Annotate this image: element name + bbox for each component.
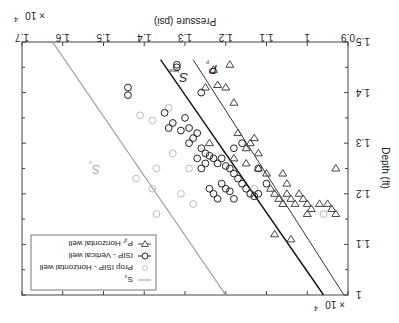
y-tick-label: 1.4 — [356, 87, 370, 98]
x-tick-label: 1 — [304, 32, 310, 43]
legend-isip-swatch — [142, 253, 148, 259]
pp-point — [332, 165, 340, 172]
x-tick-label: 1.2 — [218, 32, 232, 43]
y-tick-label: 1.1 — [356, 238, 370, 249]
pp-point — [226, 61, 234, 67]
pp-point — [254, 149, 262, 156]
scatter-plot: 0.911.11.21.31.41.51.61.711.11.21.31.41.… — [0, 0, 399, 323]
pp-point — [222, 84, 230, 91]
legend: S v Prop ISIP - Horizontal well ISIP - V… — [31, 235, 156, 290]
x-tick-label: 1.4 — [137, 32, 151, 43]
isip-point — [263, 180, 270, 187]
prop-isip-point — [186, 165, 193, 172]
isip-point — [239, 140, 246, 147]
y-multiplier: × 10 4 — [314, 299, 345, 312]
data-points — [125, 61, 340, 242]
x-tick-label: 1.1 — [259, 32, 273, 43]
y-axis-label: Depth (ft) — [380, 147, 391, 189]
isip-point — [194, 130, 201, 137]
pp-point — [279, 170, 287, 177]
sv-annotation: S v — [89, 160, 100, 176]
prop-isip-point — [190, 201, 197, 208]
isip-point — [169, 120, 176, 127]
isip-point — [231, 145, 238, 152]
prop-isip-point — [153, 211, 160, 218]
pp-annotation: P p — [206, 60, 217, 76]
prop-isip-point — [137, 112, 144, 119]
pp-point — [324, 200, 332, 207]
isip-point — [218, 155, 225, 162]
sv-text: S — [92, 162, 100, 176]
pp-point — [283, 190, 291, 197]
prop-isip-point — [149, 117, 156, 124]
pp-point — [214, 81, 222, 88]
prop-isip-point — [178, 190, 185, 197]
legend-pp-label: P - Horizontal well — [68, 239, 133, 248]
isip-point — [178, 127, 185, 134]
pp-point — [271, 230, 279, 237]
legend-sv-label: S — [128, 275, 133, 284]
y-multiplier-exp: 4 — [314, 305, 318, 312]
shmin-annotation: S hmin — [168, 68, 188, 85]
pp-point — [242, 159, 250, 166]
shmin-sub: hmin — [168, 68, 179, 74]
x-axis-label: Pressure (psi) — [154, 16, 216, 27]
prop-isip-point — [169, 150, 176, 157]
isip-point — [125, 92, 132, 99]
isip-point — [161, 109, 168, 116]
pp-text: P — [209, 62, 217, 76]
legend-prop-isip-label: Prop ISIP - Horizontal well — [40, 263, 133, 272]
x-multiplier-exp: 4 — [14, 16, 18, 23]
y-tick-label: 1.3 — [356, 137, 370, 148]
prop-isip-point — [320, 211, 327, 218]
pp-point — [230, 99, 238, 106]
isip-point — [186, 125, 193, 132]
pp-point — [315, 200, 323, 207]
x-tick-label: 1.7 — [15, 32, 29, 43]
legend-isip-label: ISIP - Vertical well — [68, 251, 133, 260]
isip-point — [198, 165, 205, 172]
chart-figure: 0.911.11.21.31.41.51.61.711.11.21.31.41.… — [0, 0, 399, 323]
isip-point — [182, 115, 189, 122]
isip-point — [231, 195, 238, 202]
isip-point — [186, 140, 193, 147]
trend-line — [193, 60, 344, 295]
pp-point — [205, 139, 213, 146]
x-tick-label: 1.3 — [178, 32, 192, 43]
y-tick-label: 1 — [356, 289, 362, 300]
y-tick-label: 1.2 — [356, 188, 370, 199]
y-tick-label: 1.5 — [356, 36, 370, 47]
isip-point — [206, 185, 213, 192]
sv-sub: v — [89, 160, 92, 166]
trend-line — [161, 60, 324, 295]
x-multiplier: × 10 4 — [14, 10, 45, 23]
y-multiplier-text: × 10 — [325, 299, 345, 310]
prop-isip-point — [133, 175, 140, 182]
legend-pp-sub: p — [124, 238, 127, 244]
pp-sub: p — [206, 60, 209, 66]
x-tick-label: 0.9 — [341, 32, 355, 43]
x-tick-label: 1.5 — [96, 32, 110, 43]
isip-point — [125, 84, 132, 91]
shmin-text: S — [179, 70, 188, 85]
pp-point — [287, 235, 295, 242]
pp-point — [283, 180, 291, 187]
isip-point — [194, 155, 201, 162]
pp-point — [230, 154, 238, 161]
prop-isip-point — [153, 165, 160, 172]
x-tick-label: 1.6 — [55, 32, 69, 43]
pp-point — [295, 190, 303, 197]
pp-point — [250, 134, 258, 141]
x-multiplier-text: × 10 — [25, 10, 45, 21]
